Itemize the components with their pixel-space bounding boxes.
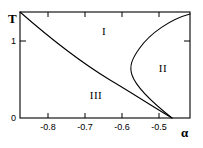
region-label-iii: III [86, 90, 106, 101]
plot-canvas [0, 0, 203, 148]
region-label-ii: II [155, 63, 171, 74]
y-axis-title: T [8, 12, 17, 25]
y-tick-label-1: 1 [2, 37, 16, 46]
phase-boundary-curve-left [20, 12, 172, 118]
y-tick-label-0: 0 [2, 114, 16, 123]
x-tick-label-0: -0.8 [35, 123, 61, 132]
x-tick-label-3: -0.5 [146, 123, 172, 132]
x-axis-title: α [181, 126, 188, 139]
x-tick-label-2: -0.6 [109, 123, 135, 132]
x-axis-ticks-top [48, 12, 159, 17]
phase-diagram-figure: T α 1 0 -0.8 -0.7 -0.6 -0.5 I II III [0, 0, 203, 148]
x-axis-ticks-bottom [48, 113, 159, 118]
region-label-i: I [98, 26, 110, 37]
x-tick-label-1: -0.7 [72, 123, 98, 132]
